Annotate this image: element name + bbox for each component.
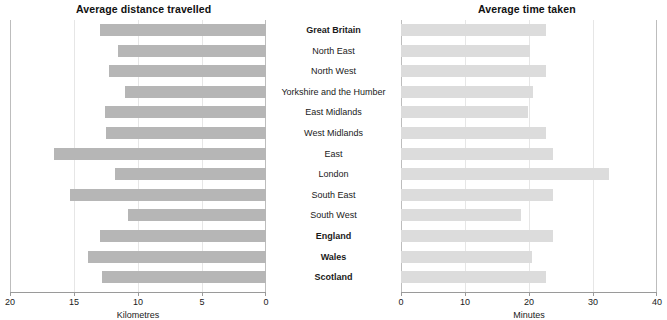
tick-label-right-30: 30 [588,297,598,307]
region-label-north-east: North East [266,45,401,57]
bar-left-wales [88,251,266,263]
region-label-south-west: South West [266,209,401,221]
bar-left-yorkshire-and-the-humber [125,86,266,98]
tick-right-0 [401,292,402,296]
tick-right-40 [656,292,657,296]
region-label-yorkshire-and-the-humber: Yorkshire and the Humber [266,86,401,98]
tick-label-left-20: 20 [5,297,15,307]
tick-right-10 [465,292,466,296]
tick-label-right-10: 10 [460,297,470,307]
right-chart-title: Average time taken [478,3,576,15]
axis-title-right: Minutes [513,310,545,320]
bar-right-south-west [401,209,521,221]
right-chart-panel: 010203040Minutes [401,20,657,292]
bar-right-north-east [401,45,530,57]
gridline-right-40 [656,20,657,292]
bar-left-north-east [118,45,266,57]
bar-right-england [401,230,553,242]
bar-right-south-east [401,189,553,201]
tick-right-20 [529,292,530,296]
tick-right-30 [593,292,594,296]
region-label-great-britain: Great Britain [266,24,401,36]
bar-left-south-east [70,189,266,201]
tick-left-20 [10,292,11,296]
region-label-north-west: North West [266,65,401,77]
tick-label-left-5: 5 [199,297,204,307]
bar-left-south-west [128,209,266,221]
bar-left-england [100,230,266,242]
tick-label-left-15: 15 [69,297,79,307]
left-chart-panel: 20151050Kilometres [10,20,266,292]
bar-left-east-midlands [105,106,266,118]
region-label-west-midlands: West Midlands [266,127,401,139]
bar-right-east-midlands [401,106,528,118]
tick-label-right-20: 20 [524,297,534,307]
region-label-scotland: Scotland [266,271,401,283]
tick-label-right-0: 0 [398,297,403,307]
tick-left-10 [138,292,139,296]
bar-left-north-west [109,65,266,77]
bar-right-yorkshire-and-the-humber [401,86,533,98]
bar-right-great-britain [401,24,546,36]
right-plot-area: 010203040Minutes [401,20,657,292]
bar-right-wales [401,251,532,263]
left-chart-title: Average distance travelled [76,3,211,15]
gridline-left-20 [10,20,11,292]
tick-left-0 [265,292,266,296]
region-label-column: Great BritainNorth EastNorth WestYorkshi… [266,20,401,292]
bar-right-scotland [401,271,546,283]
bar-left-great-britain [100,24,266,36]
tick-label-left-10: 10 [133,297,143,307]
bar-left-scotland [102,271,266,283]
region-label-wales: Wales [266,251,401,263]
bar-right-north-west [401,65,546,77]
bar-left-east [54,148,266,160]
bar-right-london [401,168,609,180]
bar-right-east [401,148,553,160]
region-label-east: East [266,148,401,160]
tick-label-left-0: 0 [263,297,268,307]
tick-label-right-40: 40 [652,297,662,307]
region-label-england: England [266,230,401,242]
region-label-east-midlands: East Midlands [266,106,401,118]
bar-left-west-midlands [106,127,266,139]
left-plot-area: 20151050Kilometres [10,20,266,292]
tick-left-5 [202,292,203,296]
region-label-south-east: South East [266,189,401,201]
bar-left-london [115,168,266,180]
tick-left-15 [74,292,75,296]
axis-title-left: Kilometres [117,310,160,320]
region-label-london: London [266,168,401,180]
gridline-right-30 [593,20,594,292]
bar-right-west-midlands [401,127,546,139]
